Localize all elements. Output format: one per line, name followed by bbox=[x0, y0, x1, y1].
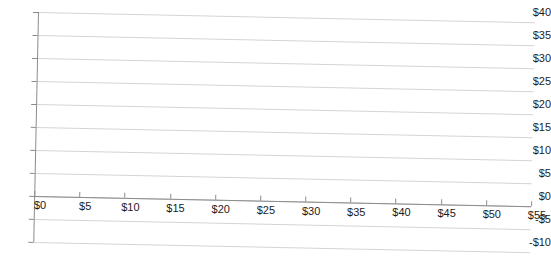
chart-container: $40$35$30$25$20$15$10$5$0-$5-$10 $0$5$10… bbox=[0, 0, 551, 265]
x-axis-label: $30 bbox=[302, 206, 320, 217]
x-axis-label: $0 bbox=[34, 200, 46, 211]
x-axis-label: $45 bbox=[437, 208, 455, 219]
x-axis-label: $5 bbox=[79, 201, 91, 212]
x-axis-label: $15 bbox=[166, 203, 184, 214]
x-axis-label: $10 bbox=[121, 202, 139, 213]
x-axis-label: $55 bbox=[528, 210, 546, 221]
x-axis-label: $20 bbox=[212, 204, 230, 215]
x-axis-label: $40 bbox=[392, 207, 410, 218]
x-axis-tick-labels: $0$5$10$15$20$25$30$35$40$45$50$55 bbox=[0, 0, 551, 265]
x-axis-label: $35 bbox=[347, 207, 365, 218]
x-axis-label: $50 bbox=[483, 209, 501, 220]
x-axis-label: $25 bbox=[257, 205, 275, 216]
